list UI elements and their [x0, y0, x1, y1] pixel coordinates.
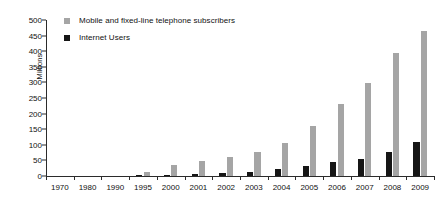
- bar-chart: Millions 050100150200250300350400450500 …: [0, 0, 441, 203]
- x-tick-label: 1995: [134, 183, 152, 192]
- legend-label-mobile: Mobile and fixed-line telephone subscrib…: [79, 16, 235, 25]
- bar: [365, 83, 371, 176]
- y-tick-mark: [42, 82, 46, 83]
- bar: [386, 152, 392, 176]
- y-tick-label: 500: [29, 16, 42, 25]
- bar: [330, 162, 336, 176]
- x-tick-label: 2005: [300, 183, 318, 192]
- x-tick-label: 2001: [190, 183, 208, 192]
- bar: [247, 172, 253, 176]
- x-tick-label: 2007: [356, 183, 374, 192]
- y-tick-label: 250: [29, 94, 42, 103]
- bar: [358, 159, 364, 176]
- x-tick-mark: [351, 176, 352, 180]
- x-tick-mark: [46, 176, 47, 180]
- bar: [164, 175, 170, 176]
- y-tick-label: 200: [29, 109, 42, 118]
- chart-legend: Mobile and fixed-line telephone subscrib…: [64, 16, 235, 50]
- y-tick-mark: [42, 98, 46, 99]
- legend-swatch-mobile-icon: [64, 18, 70, 24]
- y-tick-label: 300: [29, 78, 42, 87]
- y-tick-label: 50: [33, 156, 42, 165]
- bar: [413, 142, 419, 176]
- x-tick-mark: [101, 176, 102, 180]
- legend-swatch-internet-icon: [64, 35, 70, 41]
- bar: [192, 174, 198, 176]
- x-tick-label: 2002: [217, 183, 235, 192]
- legend-item-mobile: Mobile and fixed-line telephone subscrib…: [64, 16, 235, 25]
- x-tick-label: 2008: [384, 183, 402, 192]
- x-tick-mark: [240, 176, 241, 180]
- bar: [199, 161, 205, 176]
- legend-item-internet: Internet Users: [64, 33, 235, 42]
- bar: [136, 175, 142, 176]
- y-tick-mark: [42, 144, 46, 145]
- bar: [282, 143, 288, 176]
- bar: [227, 157, 233, 176]
- x-tick-mark: [323, 176, 324, 180]
- bar: [171, 165, 177, 176]
- y-tick-mark: [42, 160, 46, 161]
- y-tick-label: 450: [29, 31, 42, 40]
- y-tick-label: 350: [29, 62, 42, 71]
- x-tick-label: 2003: [245, 183, 263, 192]
- x-tick-mark: [379, 176, 380, 180]
- x-tick-mark: [129, 176, 130, 180]
- x-tick-mark: [74, 176, 75, 180]
- y-tick-label: 100: [29, 140, 42, 149]
- bar: [219, 173, 225, 176]
- bar: [144, 172, 150, 176]
- x-tick-mark: [295, 176, 296, 180]
- bar: [310, 126, 316, 176]
- x-tick-label: 2000: [162, 183, 180, 192]
- bar: [254, 152, 260, 176]
- y-tick-mark: [42, 129, 46, 130]
- x-tick-mark: [212, 176, 213, 180]
- y-tick-mark: [42, 66, 46, 67]
- x-tick-label: 1970: [51, 183, 69, 192]
- x-tick-mark: [185, 176, 186, 180]
- bar: [421, 31, 427, 176]
- y-tick-mark: [42, 20, 46, 21]
- x-tick-label: 2006: [328, 183, 346, 192]
- x-tick-mark: [406, 176, 407, 180]
- y-tick-mark: [42, 35, 46, 36]
- bar: [393, 53, 399, 176]
- bar: [275, 169, 281, 176]
- bar: [303, 166, 309, 176]
- y-tick-label: 400: [29, 47, 42, 56]
- y-tick-mark: [42, 113, 46, 114]
- x-tick-mark: [157, 176, 158, 180]
- x-tick-label: 2009: [411, 183, 429, 192]
- legend-label-internet: Internet Users: [79, 33, 130, 42]
- x-tick-mark: [434, 176, 435, 180]
- x-tick-label: 2004: [273, 183, 291, 192]
- x-tick-label: 1980: [79, 183, 97, 192]
- y-tick-mark: [42, 51, 46, 52]
- x-tick-label: 1990: [106, 183, 124, 192]
- bar: [338, 104, 344, 176]
- y-tick-label: 150: [29, 125, 42, 134]
- x-tick-mark: [268, 176, 269, 180]
